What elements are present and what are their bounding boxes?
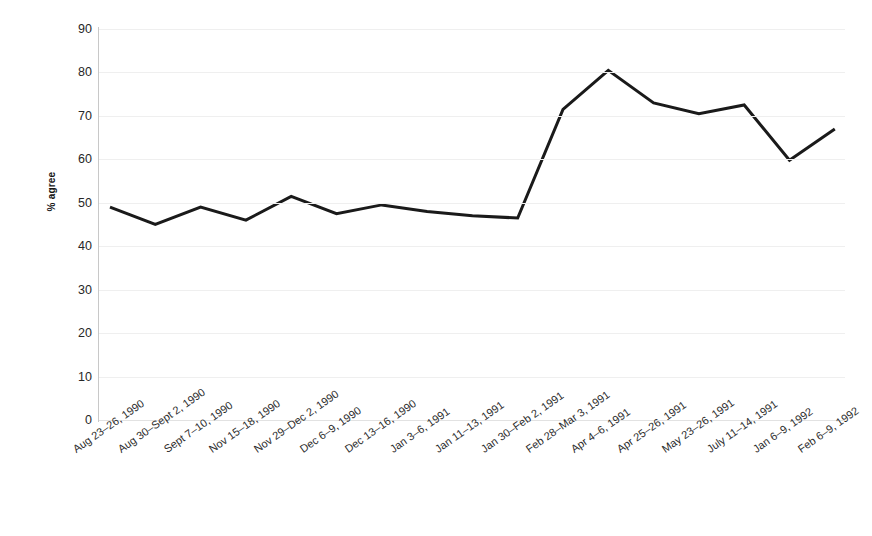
x-tick-label-9: Jan 30–Feb 2, 1991	[478, 389, 565, 455]
x-axis-tick-labels: Aug 23–26, 1990Aug 30–Sept 2, 1990Sept 7…	[0, 0, 872, 536]
line-chart: % agree 9080706050403020100 Aug 23–26, 1…	[0, 0, 872, 536]
x-tick-label-4: Nov 29–Dec 2, 1990	[252, 388, 341, 455]
